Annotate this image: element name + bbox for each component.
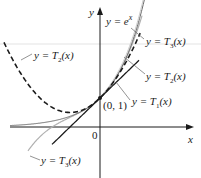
y-axis-arrow-icon <box>97 7 103 15</box>
t3-top-arg: (x) <box>173 35 185 47</box>
point-0-1 <box>98 96 102 100</box>
t2-right-label: y = T2(x) <box>146 71 186 85</box>
t2-left-label: y = T2(x) <box>34 50 74 64</box>
x-axis-label: x <box>188 134 193 145</box>
origin-label: 0 <box>92 130 98 141</box>
exp-label: y = ex <box>106 14 132 27</box>
leader-t3-bottom <box>30 156 40 160</box>
x-axis-arrow-icon <box>186 124 194 130</box>
exp-label-sup: x <box>129 13 133 22</box>
t2-left-arg: (x) <box>61 49 73 61</box>
t3-top-prefix: y = T <box>146 35 170 47</box>
t2-right-arg: (x) <box>173 70 185 82</box>
exp-label-text: y = e <box>106 15 129 27</box>
t1-arg: (x) <box>159 95 171 107</box>
curve-t3 <box>28 16 142 151</box>
t1-label: y = T1(x) <box>132 96 172 110</box>
t1-prefix: y = T <box>132 95 156 107</box>
leader-t2-left <box>21 54 32 60</box>
function-plot <box>0 0 201 178</box>
point-label: (0, 1) <box>103 100 127 111</box>
t3-bottom-arg: (x) <box>68 154 80 166</box>
y-axis-label: y <box>89 7 94 18</box>
leader-t1 <box>116 82 130 100</box>
t2-right-prefix: y = T <box>146 70 170 82</box>
t3-bottom-label: y = T3(x) <box>41 155 81 169</box>
t3-bottom-prefix: y = T <box>41 154 65 166</box>
t3-top-label: y = T3(x) <box>146 36 186 50</box>
t2-left-prefix: y = T <box>34 49 58 61</box>
